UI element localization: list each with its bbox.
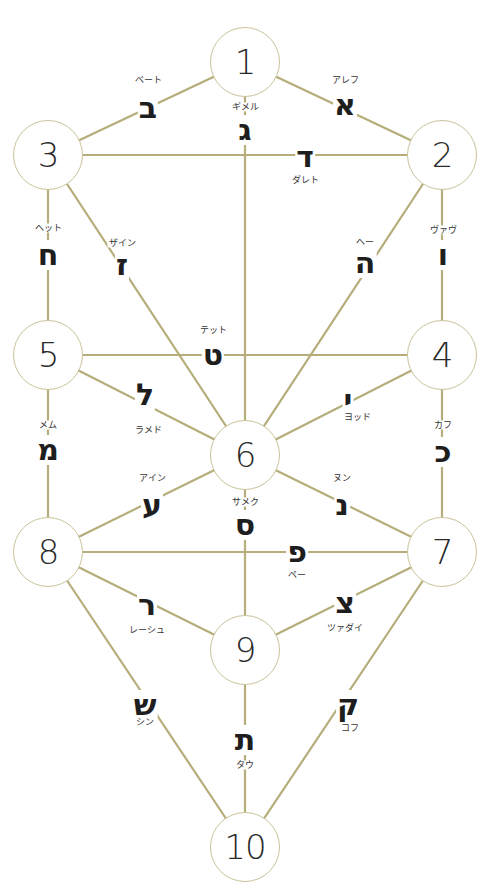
sephira-10: 10 — [210, 812, 280, 882]
hebrew-letter: צ — [334, 588, 356, 618]
hebrew-letter: ק — [336, 690, 360, 720]
letter-name-label: アレフ — [331, 76, 360, 85]
hebrew-letter: ס — [234, 510, 256, 540]
sephira-2: 2 — [407, 120, 477, 190]
hebrew-letter: מ — [36, 435, 60, 465]
sephira-number: 10 — [224, 827, 265, 867]
letter-name-label: タウ — [235, 761, 255, 770]
letter-name-label: ヘット — [34, 224, 63, 233]
hebrew-letter: ד — [295, 142, 315, 172]
letter-name-label: カフ — [433, 421, 453, 430]
hebrew-letter: א — [333, 90, 357, 120]
sephira-number: 1 — [235, 42, 256, 82]
letter-name-label: ヘー — [355, 238, 375, 247]
sephira-6: 6 — [210, 420, 280, 490]
sephira-3: 3 — [13, 120, 83, 190]
letter-name-label: ヨッド — [343, 413, 372, 422]
hebrew-letter: ז — [115, 250, 129, 280]
hebrew-letter: ל — [135, 380, 155, 410]
sephira-1: 1 — [210, 27, 280, 97]
hebrew-letter: ע — [141, 490, 163, 520]
hebrew-letter: ח — [37, 240, 60, 270]
hebrew-letter: ג — [237, 115, 252, 145]
letter-name-label: ベート — [134, 76, 163, 85]
hebrew-letter: ו — [437, 240, 449, 270]
letter-name-label: シン — [135, 718, 155, 727]
sephira-number: 6 — [235, 435, 256, 475]
letter-name-label: ザイン — [108, 239, 137, 248]
sephira-4: 4 — [407, 320, 477, 390]
hebrew-letter: ה — [354, 248, 377, 278]
sephira-number: 3 — [38, 135, 59, 175]
sephira-number: 4 — [432, 335, 453, 375]
letter-name-label: ギメル — [231, 103, 260, 112]
sephira-8: 8 — [13, 517, 83, 587]
letter-name-label: アイン — [138, 474, 167, 483]
hebrew-letter: י — [343, 385, 354, 415]
letter-name-label: ダレト — [291, 176, 320, 185]
letter-name-label: ヌン — [332, 474, 352, 483]
hebrew-letter: פ — [286, 537, 308, 567]
hebrew-letter: נ — [334, 490, 350, 520]
letter-name-label: ツァダイ — [326, 624, 364, 633]
sephira-number: 5 — [38, 335, 59, 375]
sephira-5: 5 — [13, 320, 83, 390]
letter-name-label: ヴァヴ — [429, 226, 458, 235]
letter-name-label: メム — [38, 421, 58, 430]
sephira-7: 7 — [407, 517, 477, 587]
hebrew-letter: ר — [137, 590, 157, 620]
letter-name-label: サメク — [231, 498, 260, 507]
letter-name-label: コフ — [340, 724, 360, 733]
sephira-number: 2 — [432, 135, 453, 175]
tree-of-life-diagram: אアレフבベートגギメルדダレトהヘーוヴァヴזザインחヘットטテットיヨッドכ… — [0, 0, 492, 890]
hebrew-letter: ב — [138, 93, 158, 123]
letter-name-label: ラメド — [134, 426, 163, 435]
letter-name-label: テット — [199, 326, 228, 335]
sephira-number: 9 — [235, 630, 256, 670]
sephira-number: 7 — [432, 532, 453, 572]
hebrew-letter: ט — [202, 340, 224, 370]
hebrew-letter: כ — [434, 437, 453, 467]
hebrew-letter: ת — [234, 725, 257, 755]
letter-name-label: ペー — [287, 571, 307, 580]
sephira-number: 8 — [38, 532, 59, 572]
letter-name-label: レーシュ — [128, 626, 166, 635]
hebrew-letter: ש — [133, 690, 158, 720]
sephira-9: 9 — [210, 615, 280, 685]
